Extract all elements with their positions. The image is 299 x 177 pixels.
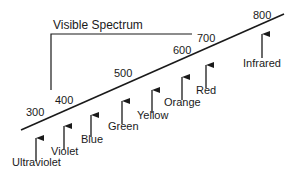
band-ultraviolet: Ultraviolet xyxy=(12,157,61,168)
wavelength-300: 300 xyxy=(26,107,44,118)
wavelength-400: 400 xyxy=(55,95,73,106)
band-green: Green xyxy=(108,121,139,132)
spectrum-diagram xyxy=(0,0,299,177)
visible-spectrum-title: Visible Spectrum xyxy=(53,19,143,31)
band-blue: Blue xyxy=(81,134,103,145)
wavelength-600: 600 xyxy=(173,45,191,56)
band-orange: Orange xyxy=(164,97,201,108)
band-red: Red xyxy=(196,85,216,96)
band-infrared: Infrared xyxy=(243,58,281,69)
wavelength-500: 500 xyxy=(114,68,132,79)
band-yellow: Yellow xyxy=(137,110,168,121)
wavelength-800: 800 xyxy=(253,10,271,21)
wavelength-700: 700 xyxy=(197,33,215,44)
visible-spectrum-bracket xyxy=(51,34,192,90)
band-violet: Violet xyxy=(51,146,78,157)
